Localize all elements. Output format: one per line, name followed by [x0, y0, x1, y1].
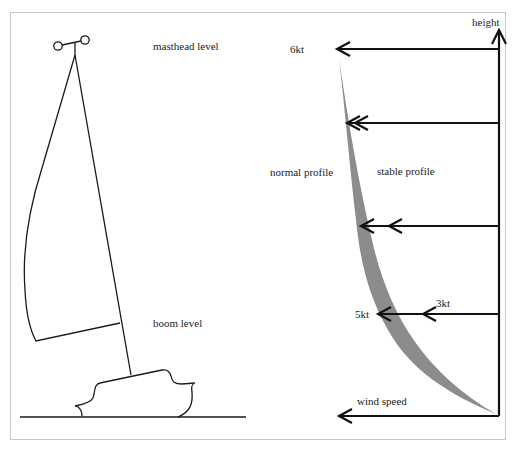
masthead-level-label: masthead level	[153, 40, 219, 52]
boom-level-label: boom level	[153, 317, 202, 329]
sail	[24, 55, 120, 341]
speed-label-5kt: 5kt	[355, 308, 369, 320]
sailboat	[20, 36, 246, 417]
hull	[75, 370, 195, 417]
wind-indicator-icon	[54, 36, 89, 55]
wind-speed-axis-label: wind speed	[357, 395, 407, 407]
height-axis-label: height	[472, 16, 500, 28]
wind-profile-diagram: masthead level boom level height wind sp…	[0, 0, 517, 452]
normal-profile-label: normal profile	[270, 166, 333, 178]
profile-difference-area	[339, 58, 496, 414]
speed-label-6kt: 6kt	[290, 43, 304, 55]
stable-profile-label: stable profile	[377, 165, 435, 177]
speed-label-3kt: 3kt	[436, 297, 450, 309]
